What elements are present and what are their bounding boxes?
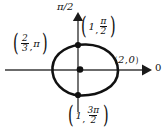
comma-separator: , [95, 25, 99, 36]
angle-value: 0 [128, 55, 134, 65]
open-paren: ( [114, 55, 117, 65]
angle-fraction: π 2 [99, 17, 107, 36]
close-paren: ) [102, 106, 108, 125]
point-label-top: ( 1 , π 2 ) [79, 17, 117, 37]
angle-fraction: 3π 2 [86, 106, 100, 125]
point-marker-top [75, 42, 81, 48]
fraction-denominator: 3 [21, 43, 29, 53]
point-label-left: ( 2 3 , π ) [11, 34, 49, 54]
horizontal-axis-arrowhead [142, 65, 152, 76]
open-paren: ( [81, 17, 87, 36]
fraction-numerator: π [99, 17, 107, 26]
close-paren: ) [42, 34, 48, 53]
fraction-numerator: 3π [86, 106, 100, 115]
point-marker-bottom [75, 92, 81, 98]
close-paren: ) [135, 55, 138, 65]
fraction-denominator: 2 [89, 115, 97, 125]
origin-point-marker [77, 66, 84, 73]
polar-graph-figure: π/2 0 ( 2 , 0 ) ( 1 , π 2 ) ( 2 [0, 0, 168, 138]
radius-fraction: 2 3 [21, 34, 29, 53]
fraction-numerator: 2 [21, 34, 29, 43]
open-paren: ( [13, 34, 19, 53]
fraction-denominator: 2 [100, 26, 108, 36]
close-paren: ) [110, 17, 116, 36]
point-label-bottom: ( 1 , 3π 2 ) [66, 106, 110, 126]
point-label-right: ( 2 , 0 ) [114, 50, 139, 66]
comma-separator: , [82, 114, 86, 125]
open-paren: ( [68, 106, 74, 125]
vertical-axis-label: π/2 [57, 2, 73, 12]
angle-value: π [33, 39, 40, 49]
horizontal-axis-label: 0 [155, 63, 161, 73]
